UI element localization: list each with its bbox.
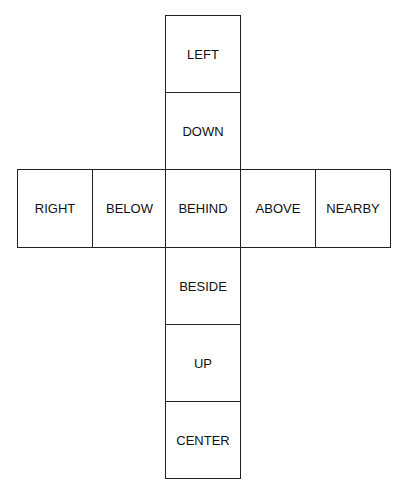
cell-label: BEHIND — [178, 201, 227, 216]
cell-label: CENTER — [176, 433, 229, 448]
cell-behind: BEHIND — [165, 169, 241, 248]
cell-nearby: NEARBY — [315, 169, 391, 248]
cell-below: BELOW — [92, 169, 167, 248]
cell-right: RIGHT — [17, 169, 93, 248]
cell-label: BELOW — [106, 201, 153, 216]
cell-beside: BESIDE — [165, 247, 241, 325]
cell-label: LEFT — [187, 47, 219, 62]
cell-label: DOWN — [182, 124, 223, 139]
cell-label: ABOVE — [256, 201, 301, 216]
cell-center: CENTER — [165, 401, 241, 479]
cell-label: BESIDE — [179, 279, 227, 294]
cell-label: RIGHT — [35, 201, 75, 216]
cell-down: DOWN — [165, 92, 241, 170]
cell-left: LEFT — [165, 15, 241, 93]
cell-above: ABOVE — [240, 169, 316, 248]
cell-up: UP — [165, 324, 241, 402]
cell-label: NEARBY — [326, 201, 379, 216]
cell-label: UP — [194, 356, 212, 371]
